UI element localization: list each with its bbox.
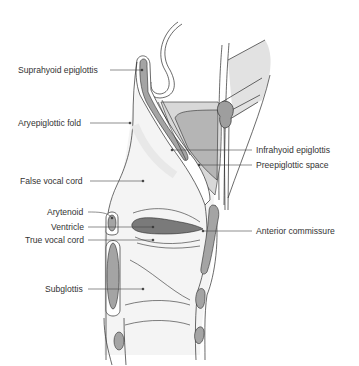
cricoid-ring-1 [196,289,205,309]
label-suprahyoid-epiglottis: Suprahyoid epiglottis [18,65,98,75]
cricoid-lamina [107,243,119,309]
tongue-base-outline [147,24,182,98]
label-false-vocal-cord: False vocal cord [20,176,83,186]
label-aryepiglottic-fold: Aryepiglottic fold [18,118,81,128]
posterior-ring [114,332,124,350]
label-arytenoid: Arytenoid [47,207,83,217]
label-anterior-commissure: Anterior commissure [256,226,335,236]
label-infrahyoid-epiglottis: Infrahyoid epiglottis [256,145,330,155]
larynx-diagram: Suprahyoid epiglottis Aryepiglottic fold… [0,0,359,366]
strap-muscle [228,40,271,118]
label-subglottis: Subglottis [45,284,83,294]
label-preepiglottic-space: Preepiglottic space [256,160,329,170]
label-ventricle: Ventricle [51,222,84,232]
label-true-vocal-cord: True vocal cord [25,235,84,245]
